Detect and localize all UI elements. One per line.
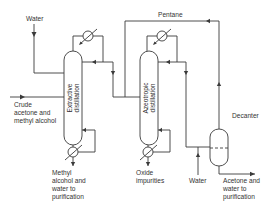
arrow-down-icon — [184, 71, 188, 75]
arrow-left-icon — [166, 60, 170, 64]
arrow-right-icon — [250, 172, 255, 176]
process-flow-diagram: Water Crude acetone and methyl alcohol E… — [0, 0, 274, 204]
azeotropic-distillation-column: Azeotropic distillation — [140, 51, 158, 145]
pentane-recycle-stream: Pentane — [125, 11, 221, 129]
arrow-up-icon — [217, 82, 221, 86]
water-inlet-stream: Water — [26, 15, 64, 73]
azeotropic-condenser — [153, 29, 171, 45]
pentane-label: Pentane — [158, 11, 183, 18]
extractive-reboiler — [65, 145, 82, 160]
azeotropic-reboiler — [140, 145, 157, 160]
arrow-down-icon — [111, 71, 115, 75]
decanter-product-label: Acetone and water to purification — [222, 177, 262, 201]
decanter-water-label: Water — [189, 177, 207, 184]
water-inlet-label: Water — [26, 15, 44, 22]
decanter-label: Decanter — [232, 112, 260, 119]
arrow-down-icon — [32, 32, 37, 37]
extractive-column-label-2: distillation — [73, 83, 80, 112]
decanter-water-stream: Water — [189, 147, 207, 184]
extractive-bottoms-label: Methyl alcohol and water to purification — [51, 169, 88, 201]
feed-stream: Crude acetone and methyl alcohol — [10, 95, 64, 126]
feed-label: Crude acetone and methyl alcohol — [14, 101, 57, 125]
arrow-down-icon — [71, 162, 75, 166]
azeotropic-bottoms-label: Oxide impurities — [136, 169, 165, 185]
azeotropic-column-label-2: distillation — [149, 83, 156, 112]
arrow-up-icon — [196, 153, 200, 157]
extractive-condenser — [79, 29, 97, 45]
extractive-distillation-column: Extractive distillation — [64, 51, 82, 145]
decanter-product-stream: Acetone and water to purification — [219, 166, 262, 201]
arrow-left-icon — [92, 60, 96, 64]
extractive-column-label-1: Extractive — [66, 83, 73, 112]
arrow-right-icon — [20, 95, 25, 100]
arrow-left-icon — [206, 19, 210, 23]
decanter: Decanter — [210, 112, 260, 166]
arrow-down-icon — [146, 162, 150, 166]
